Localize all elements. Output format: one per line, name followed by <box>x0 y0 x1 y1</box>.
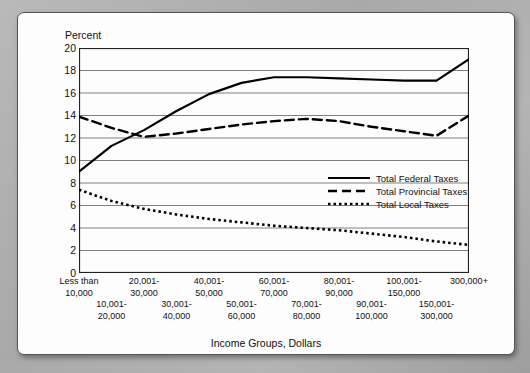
line-chart-svg <box>79 48 469 273</box>
legend-line-swatch-dashed <box>328 186 370 196</box>
y-tick-label: 18 <box>64 64 76 77</box>
x-tick-label-line1: 300,000+ <box>430 276 508 288</box>
x-axis-title: Income Groups, Dollars <box>18 337 514 349</box>
legend-item: Total Provincial Taxes <box>328 185 467 197</box>
x-tick-label-line2: 150,000 <box>365 288 443 300</box>
y-tick-label: 14 <box>64 109 76 122</box>
x-tick-label-line2: 300,000 <box>398 311 476 323</box>
y-tick-label: 2 <box>70 244 76 257</box>
x-axis-tick-labels: Less than10,00020,001-30,00040,001-50,00… <box>58 276 498 336</box>
y-tick-label: 10 <box>64 154 76 167</box>
y-tick-label: 8 <box>70 177 76 190</box>
y-tick-label: 16 <box>64 87 76 100</box>
legend-line-swatch-dotted <box>328 199 370 209</box>
legend-line-swatch-solid <box>328 173 370 183</box>
y-tick-label: 12 <box>64 132 76 145</box>
y-axis-tick-labels: 02468101214161820 <box>38 41 76 281</box>
chart-legend: Total Federal TaxesTotal Provincial Taxe… <box>328 172 467 211</box>
y-axis-title: Percent <box>65 29 101 41</box>
x-tick-label-line1: 150,001- <box>398 299 476 311</box>
x-tick-label: 300,000+ <box>430 276 508 288</box>
legend-label: Total Local Taxes <box>376 199 449 210</box>
chart-card: Percent 02468101214161820 Less than10,00… <box>17 12 515 355</box>
legend-item: Total Local Taxes <box>328 198 467 210</box>
legend-item: Total Federal Taxes <box>328 172 467 184</box>
y-tick-label: 20 <box>64 42 76 55</box>
y-tick-label: 6 <box>70 199 76 212</box>
x-tick-label: 150,001-300,000 <box>398 299 476 322</box>
plot-area <box>79 48 469 273</box>
legend-label: Total Provincial Taxes <box>376 186 467 197</box>
legend-label: Total Federal Taxes <box>376 173 458 184</box>
y-tick-label: 4 <box>70 222 76 235</box>
